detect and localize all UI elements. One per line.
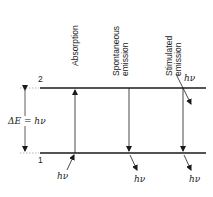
stimulated-emission-label: Stimulated emission [165,36,183,76]
diagram-graphics [0,0,213,197]
energy-level-diagram: Absorption Spontaneous emission Stimulat… [0,0,213,197]
spontaneous-emission-label: Spontaneous emission [112,26,130,76]
lower-level-number: 1 [38,155,43,165]
stimulated-photon-label: hν [189,174,200,184]
spontaneous-photon-label: hν [134,174,145,184]
spontaneous-photon-arrow [130,155,137,170]
stimulated-incoming-photon-label: hν [184,73,195,83]
absorption-photon-label: hν [57,171,68,181]
stimulated-photon-arrow [184,155,191,170]
absorption-label: Absorption [71,25,80,66]
absorption-photon-arrow [67,155,74,170]
energy-gap-label: ΔE = hν [8,116,46,126]
upper-level-number: 2 [38,74,43,84]
